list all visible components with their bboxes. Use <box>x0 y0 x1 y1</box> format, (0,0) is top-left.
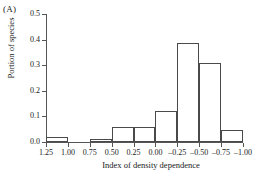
bar <box>90 139 112 142</box>
bar <box>46 137 68 142</box>
plot-area: 0.00.10.20.30.40.5 1.251.000.750.500.250… <box>46 14 243 143</box>
x-axis-title: Index of density dependence <box>46 160 256 170</box>
bar-series <box>46 14 243 143</box>
bar <box>177 43 199 142</box>
y-tick-label: 0.5 <box>30 9 40 18</box>
x-tick-mark <box>221 143 222 147</box>
bar <box>155 111 177 142</box>
y-tick-label: 0.2 <box>30 86 40 95</box>
x-tick-label: –0.25 <box>168 148 186 157</box>
y-tick-label: 0.3 <box>30 60 40 69</box>
bar <box>134 127 156 142</box>
x-tick-label: 0.50 <box>105 148 119 157</box>
x-tick-label: 1.25 <box>39 148 53 157</box>
x-tick-mark <box>177 143 178 147</box>
bar <box>112 127 134 142</box>
y-tick-label: 0.0 <box>30 137 40 146</box>
x-tick-label: 0.75 <box>83 148 97 157</box>
x-tick-mark <box>90 143 91 147</box>
x-tick-mark <box>155 143 156 147</box>
bar <box>199 63 221 142</box>
x-tick-mark <box>112 143 113 147</box>
x-tick-label: –1.00 <box>234 148 252 157</box>
x-tick-label: 0.25 <box>127 148 141 157</box>
y-axis-title: Portion of species <box>6 0 16 103</box>
x-tick-label: –0.75 <box>212 148 230 157</box>
x-tick-mark <box>68 143 69 147</box>
y-tick-label: 0.1 <box>30 111 40 120</box>
x-tick-label: 0.00 <box>148 148 162 157</box>
bar <box>221 130 243 142</box>
x-tick-mark <box>46 143 47 147</box>
x-tick-label: 1.00 <box>61 148 75 157</box>
x-tick-mark <box>134 143 135 147</box>
x-tick-mark <box>243 143 244 147</box>
x-tick-mark <box>199 143 200 147</box>
x-tick-label: –0.50 <box>190 148 208 157</box>
y-tick-label: 0.4 <box>30 35 40 44</box>
figure-panel-a: (A) Portion of species 0.00.10.20.30.40.… <box>0 0 266 176</box>
